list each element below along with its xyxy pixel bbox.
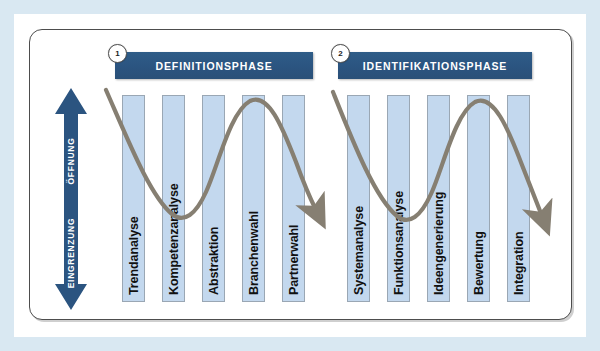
phase-1-header: DEFINITIONSPHASE (115, 52, 313, 79)
step-bar-kompetenzanalyse[interactable]: Kompetenzanalyse (162, 95, 185, 302)
step-bar-ideengenerierung[interactable]: Ideengenerierung (427, 95, 450, 302)
step-bar-partnerwahl[interactable]: Partnerwahl (282, 95, 305, 302)
axis-label-oeffnung: ÖFFNUNG (66, 138, 76, 185)
step-bar-bewertung[interactable]: Bewertung (467, 95, 490, 302)
phase-2-badge: 2 (331, 44, 350, 63)
step-label-branchenwahl: Branchenwahl (247, 211, 261, 295)
step-label-trendanalyse: Trendanalyse (127, 216, 141, 295)
step-bar-branchenwahl[interactable]: Branchenwahl (242, 95, 265, 302)
step-label-integration: Integration (512, 232, 526, 295)
axis-label-eingrenzung: EINGRENZUNG (66, 218, 76, 289)
step-label-bewertung: Bewertung (472, 231, 486, 295)
step-label-systemanalyse: Systemanalyse (352, 206, 366, 295)
step-bar-integration[interactable]: Integration (507, 95, 530, 302)
phase-1-badge: 1 (108, 44, 127, 63)
step-label-kompetenzanalyse: Kompetenzanalyse (167, 183, 181, 295)
step-bar-systemanalyse[interactable]: Systemanalyse (347, 95, 370, 302)
diagram-canvas: ÖFFNUNG EINGRENZUNG DEFINITIONSPHASE 1 T… (0, 0, 600, 351)
step-label-abstraktion: Abstraktion (207, 227, 221, 295)
step-bar-funktionsanalyse[interactable]: Funktionsanalyse (387, 95, 410, 302)
phase-2-header: IDENTIFIKATIONSPHASE (338, 52, 532, 79)
step-label-partnerwahl: Partnerwahl (287, 225, 301, 295)
step-bar-abstraktion[interactable]: Abstraktion (202, 95, 225, 302)
oeffnung-eingrenzung-arrow: ÖFFNUNG EINGRENZUNG (55, 88, 87, 310)
step-label-ideengenerierung: Ideengenerierung (432, 192, 446, 295)
step-bar-trendanalyse[interactable]: Trendanalyse (122, 95, 145, 302)
step-label-funktionsanalyse: Funktionsanalyse (392, 191, 406, 295)
